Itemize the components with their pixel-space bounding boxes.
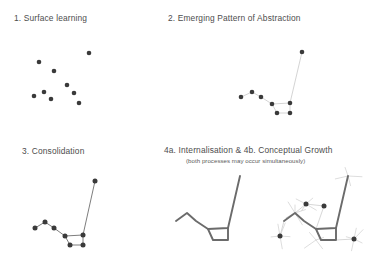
panel-4b-growth-rays	[271, 167, 363, 250]
constellation-dot	[68, 243, 73, 248]
growth-ray	[280, 236, 290, 237]
constellation-dot	[87, 51, 92, 56]
constellation-dot	[239, 95, 244, 100]
growth-ray	[346, 237, 354, 239]
constellation-link	[241, 52, 302, 104]
growth-ray	[295, 213, 302, 225]
constellation-dot	[270, 102, 275, 107]
constellation-dot	[72, 91, 77, 96]
constellation-dot	[37, 60, 42, 65]
constellation-link	[284, 176, 348, 229]
panel-2-scatter-dots	[239, 50, 305, 116]
constellation-dot	[300, 50, 305, 55]
panel-1-title: 1. Surface learning	[14, 14, 87, 23]
constellation-dot	[33, 226, 38, 231]
constellation-dot	[288, 111, 293, 116]
constellation-dot	[275, 111, 280, 116]
growth-ray	[305, 240, 316, 248]
growth-ray	[354, 239, 362, 243]
growth-ray	[354, 230, 363, 239]
panel-4b-new-dots	[278, 202, 357, 242]
constellation-link	[336, 239, 354, 240]
panel-4a-internalisation-outline	[176, 176, 240, 240]
constellation-dot	[250, 90, 255, 95]
growth-ray	[288, 202, 295, 213]
growth-ray	[280, 223, 285, 236]
constellation-link	[316, 228, 336, 240]
growth-ray	[295, 210, 305, 213]
constellation-dot	[259, 95, 264, 100]
growth-ray	[271, 236, 280, 237]
constellation-dot	[278, 234, 283, 239]
figure-canvas: 1. Surface learning 2. Emerging Pattern …	[0, 0, 390, 275]
panel-3-title: 3. Consolidation	[22, 147, 84, 156]
panel-1-scatter-dots	[32, 51, 92, 106]
panel-4-subtitle: (both processes may occur simultaneously…	[186, 158, 305, 165]
constellation-dot	[52, 69, 57, 74]
constellation-link	[295, 204, 324, 229]
growth-ray	[296, 199, 306, 204]
constellation-dot	[322, 204, 327, 209]
constellation-dot	[32, 94, 37, 99]
constellation-dot	[304, 202, 309, 207]
constellation-diagram	[0, 0, 390, 275]
panel-4-title: 4a. Internalisation & 4b. Conceptual Gro…	[164, 146, 332, 155]
growth-ray	[352, 239, 354, 251]
constellation-dot	[288, 101, 293, 106]
panel-4b-new-links	[280, 204, 354, 240]
constellation-link	[280, 213, 295, 236]
constellation-dot	[77, 101, 82, 106]
growth-ray	[345, 167, 348, 176]
constellation-dot	[65, 83, 70, 88]
constellation-link	[65, 235, 83, 245]
constellation-dot	[81, 243, 86, 248]
constellation-dot	[93, 179, 98, 184]
growth-ray	[316, 240, 323, 249]
constellation-dot	[63, 234, 68, 239]
growth-ray	[335, 176, 348, 179]
growth-ray	[306, 204, 316, 210]
constellation-link	[176, 176, 240, 229]
growth-ray	[348, 176, 351, 186]
growth-ray	[302, 204, 306, 211]
growth-ray	[286, 213, 295, 218]
growth-ray	[306, 198, 313, 204]
panel-3-strong-links	[35, 181, 95, 245]
constellation-dot	[42, 90, 47, 95]
growth-ray	[280, 236, 282, 249]
panel-4b-conceptual-growth-outline	[284, 176, 348, 240]
growth-ray	[278, 224, 280, 236]
growth-ray	[309, 232, 316, 240]
constellation-dot	[81, 233, 86, 238]
panel-3-scatter-dots	[33, 179, 98, 248]
growth-ray	[316, 237, 324, 240]
constellation-link	[35, 181, 95, 236]
constellation-link	[208, 228, 228, 240]
constellation-link	[272, 103, 290, 113]
growth-ray	[348, 176, 362, 177]
constellation-dot	[52, 226, 57, 231]
constellation-dot	[352, 237, 357, 242]
panel-2-faint-links	[241, 52, 302, 113]
growth-ray	[354, 228, 356, 239]
panel-2-title: 2. Emerging Pattern of Abstraction	[168, 14, 301, 23]
constellation-dot	[43, 220, 48, 225]
constellation-dot	[49, 97, 54, 102]
